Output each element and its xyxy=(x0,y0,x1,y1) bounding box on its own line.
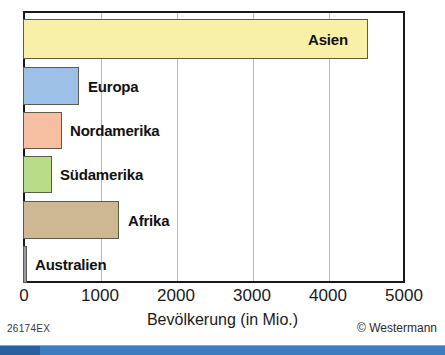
bar-afrika[interactable] xyxy=(23,201,119,239)
bar-label-australien: Australien xyxy=(35,257,106,272)
bar-label-nordamerika: Nordamerika xyxy=(70,123,160,138)
x-tick-4000: 4000 xyxy=(309,287,347,304)
bottom-strip xyxy=(0,346,445,355)
bar-europa[interactable] xyxy=(23,67,79,105)
x-tick-1000: 1000 xyxy=(81,287,119,304)
bar-australien[interactable] xyxy=(23,246,27,283)
bar-label-suedamerika: Südamerika xyxy=(60,167,143,182)
publisher-credit: © Westermann xyxy=(357,322,437,334)
bar-label-asien: Asien xyxy=(308,32,348,47)
x-tick-0: 0 xyxy=(19,287,28,304)
bar-row-nordamerika: Nordamerika xyxy=(23,112,405,149)
bar-row-asien: Asien xyxy=(23,19,405,59)
bar-row-suedamerika: Südamerika xyxy=(23,156,405,193)
x-axis-tick-labels: 0 1000 2000 3000 4000 5000 xyxy=(0,287,445,311)
bar-row-australien: Australien xyxy=(23,246,405,283)
bar-nordamerika[interactable] xyxy=(23,112,62,149)
bar-suedamerika[interactable] xyxy=(23,156,52,193)
bar-row-europa: Europa xyxy=(23,67,405,105)
x-tick-5000: 5000 xyxy=(385,287,423,304)
bar-label-afrika: Afrika xyxy=(128,213,169,228)
bar-label-europa: Europa xyxy=(88,79,138,94)
x-tick-3000: 3000 xyxy=(233,287,271,304)
bars-container: Asien Europa Nordamerika Südamerika Afri… xyxy=(23,11,405,283)
figure-code: 26174EX xyxy=(7,324,50,334)
bottom-strip-accent xyxy=(0,346,40,355)
bar-row-afrika: Afrika xyxy=(23,201,405,239)
population-bar-chart-figure: Asien Europa Nordamerika Südamerika Afri… xyxy=(0,0,445,355)
x-tick-2000: 2000 xyxy=(157,287,195,304)
